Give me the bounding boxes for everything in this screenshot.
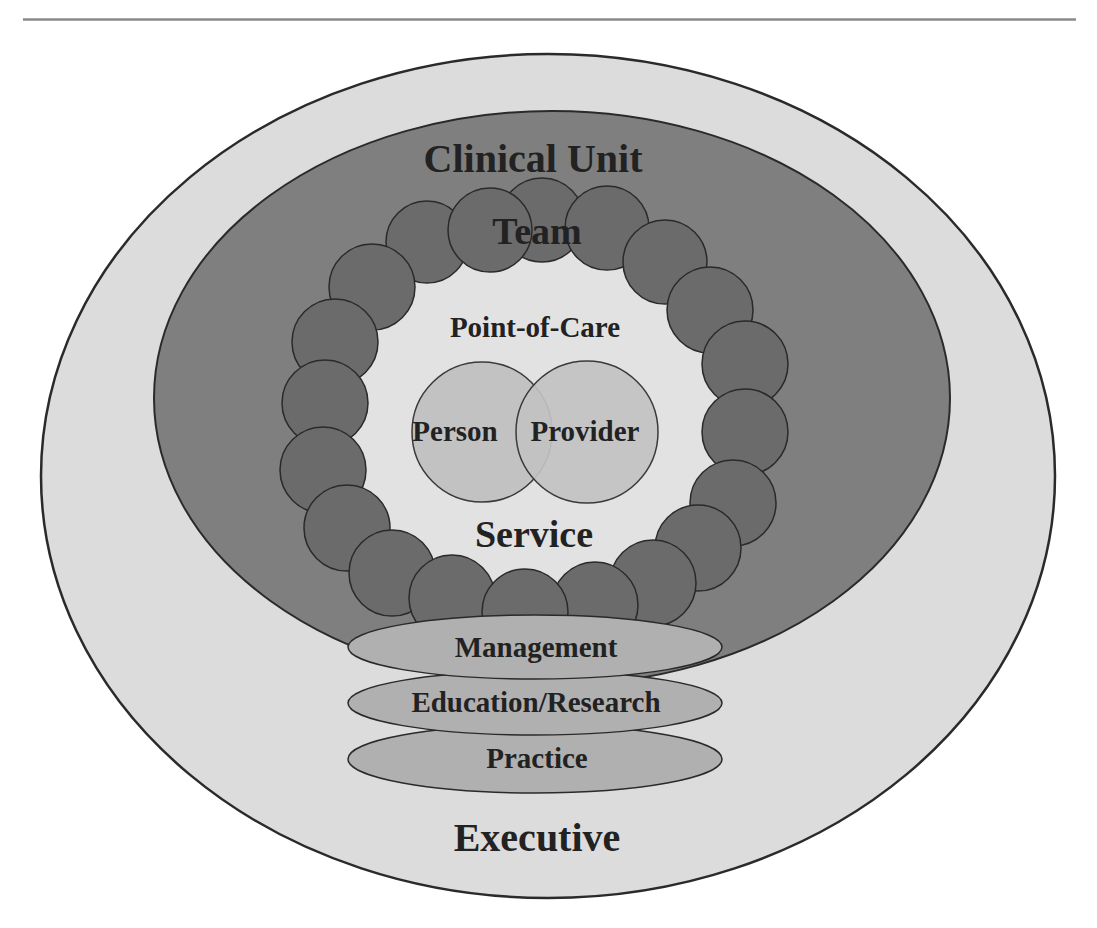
practice-label: Practice xyxy=(486,742,588,774)
service-label: Service xyxy=(475,513,593,555)
team-label: Team xyxy=(492,210,581,252)
care-layers-diagram: Clinical Unit Team Point-of-Care Person … xyxy=(0,0,1097,928)
person-label: Person xyxy=(412,415,497,447)
point-of-care-label: Point-of-Care xyxy=(450,311,620,343)
clinical-unit-label: Clinical Unit xyxy=(424,136,644,181)
provider-label: Provider xyxy=(531,415,640,447)
education-research-label: Education/Research xyxy=(411,686,660,718)
executive-label: Executive xyxy=(454,815,621,860)
management-label: Management xyxy=(455,631,618,663)
